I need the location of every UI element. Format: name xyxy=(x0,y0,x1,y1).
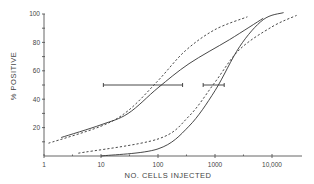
y-tick-label: 20 xyxy=(33,124,41,131)
x-tick-label: 1 xyxy=(42,161,46,168)
x-tick-label: 1000 xyxy=(208,161,223,168)
x-tick-label: 10,000 xyxy=(262,161,282,168)
axes xyxy=(42,14,302,158)
curves xyxy=(49,13,297,156)
chart: 20406080100110100100010,000 NO. CELLS IN… xyxy=(0,0,314,184)
series-line-1 xyxy=(61,18,263,137)
chart-svg: 20406080100110100100010,000 NO. CELLS IN… xyxy=(0,0,314,184)
x-axis-label: NO. CELLS INJECTED xyxy=(125,171,212,180)
series-line-2 xyxy=(49,17,248,143)
y-tick-label: 60 xyxy=(33,67,41,74)
series-line-3 xyxy=(101,13,284,156)
x-tick-label: 100 xyxy=(153,161,164,168)
series-line-4 xyxy=(78,15,296,153)
y-tick-label: 40 xyxy=(33,96,41,103)
y-tick-label: 80 xyxy=(33,39,41,46)
x-tick-label: 10 xyxy=(97,161,105,168)
y-tick-label: 100 xyxy=(29,10,40,17)
y-axis-label: % POSITIVE xyxy=(9,52,18,100)
